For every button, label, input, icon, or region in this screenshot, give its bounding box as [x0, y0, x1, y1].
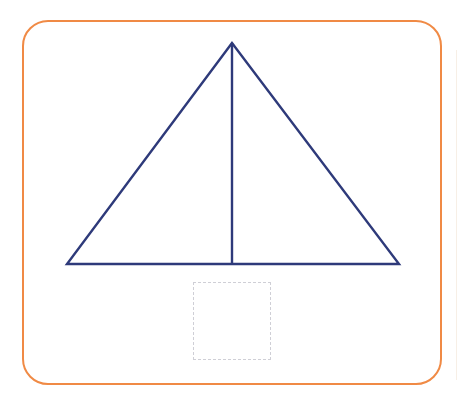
page-edge-divider: [456, 50, 457, 380]
answer-box[interactable]: [193, 282, 271, 360]
